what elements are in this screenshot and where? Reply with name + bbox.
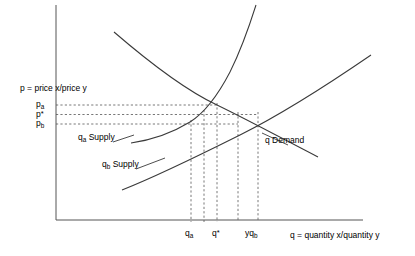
curve-label-qb-supply-rest: Supply — [110, 159, 138, 169]
price-gridlines-group — [56, 105, 258, 124]
curve-label-qa-supply: qa Supply — [78, 133, 115, 142]
curve-label-q-demand-rest: Demand — [270, 135, 305, 145]
annotation-leaders-group — [113, 133, 288, 169]
price-tick-pa: pa — [36, 100, 44, 109]
leader-line-qa-supply — [113, 135, 134, 142]
quantity-tick-yqb-sub: b — [254, 232, 258, 239]
quantity-tick-qa-sub: a — [190, 232, 194, 239]
price-tick-pstar-sup: * — [41, 109, 44, 118]
price-tick-pb: pb — [36, 119, 44, 128]
curve-label-qa-supply-sub: a — [83, 136, 87, 143]
curve-label-q-demand: q Demand — [265, 136, 304, 145]
leader-line-qb-supply — [136, 158, 165, 169]
price-tick-pb-sub: b — [41, 122, 45, 129]
y-axis-title: p = price x/price y — [20, 84, 87, 93]
supply-demand-figure: p = price x/price y q = quantity x/quant… — [0, 0, 415, 256]
chart-canvas — [0, 0, 415, 256]
quantity-tick-yqb: yqb — [245, 229, 258, 238]
curve-qb-supply — [122, 55, 371, 190]
quantity-tick-qa: qa — [185, 229, 193, 238]
x-axis-title: q = quantity x/quantity y — [290, 231, 380, 240]
curve-label-qb-supply-sub: b — [107, 163, 111, 170]
curve-label-qa-supply-rest: Supply — [86, 132, 114, 142]
curve-label-qb-supply: qb Supply — [102, 160, 139, 169]
quantity-tick-yqb-main: yq — [245, 228, 254, 238]
axes-group — [56, 5, 363, 220]
quantity-tick-qstar: q* — [212, 229, 220, 238]
curve-qa-supply — [131, 5, 256, 143]
quantity-tick-qstar-sup: * — [217, 228, 220, 237]
